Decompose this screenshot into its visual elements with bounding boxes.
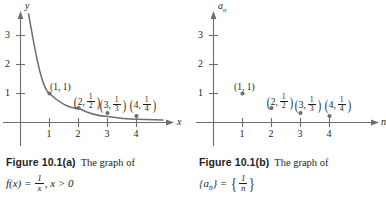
x-axis-b [196, 120, 379, 126]
figure-panel-a: y x 1 2 3 1 2 3 4 (1, 1) (2, 12) (3, 13)… [0, 0, 193, 205]
paren-open-3-b: ( [295, 97, 298, 114]
caption-formula-a: f(x) = 1x, x > 0 [6, 174, 192, 193]
x-tick-label-2-b: 2 [269, 128, 274, 139]
point-label-4-a: (4, 14) [129, 96, 156, 114]
point-x-3-a: 3 [104, 100, 109, 110]
brace-close-b: } [250, 176, 256, 194]
formula-lhs-a: f(x) [6, 177, 21, 189]
paren-close-3-b: ) [317, 97, 320, 114]
paren-open-2-b: ( [267, 94, 270, 111]
figure-label-a: Figure 10.1(a) [6, 156, 76, 168]
paren-close-4-b: ) [347, 97, 350, 114]
fraction-4-b: 14 [338, 96, 346, 113]
point-x-2-b: 2 [271, 97, 276, 107]
fraction-2-b: 12 [280, 93, 288, 110]
y-axis-b [211, 11, 217, 146]
plot-area-a: y x 1 2 3 1 2 3 4 (1, 1) (2, 12) (3, 13)… [0, 0, 193, 150]
point-x-4-b: 4 [329, 100, 334, 110]
caption-text-a: The graph of [76, 157, 135, 168]
x-axis-label-a: x [177, 116, 181, 127]
point-label-3-b: (3, 13) [294, 96, 321, 114]
paren-open-2-a: ( [74, 94, 77, 111]
x-axis-label-b: n [381, 116, 386, 127]
y-tick-label-3-b: 3 [198, 29, 203, 40]
plot-area-b: an n 1 2 3 1 2 3 4 (1, 1) (2, 12) (3, 13… [193, 0, 386, 150]
x-tick-label-3-b: 3 [298, 128, 303, 139]
figure-10-1: y x 1 2 3 1 2 3 4 (1, 1) (2, 12) (3, 13)… [0, 0, 386, 205]
graph-f-of-x [0, 0, 193, 150]
x-tick-label-1-a: 1 [47, 128, 52, 139]
formula-eq-a: = [24, 177, 31, 189]
y-tick-label-2-b: 2 [198, 58, 203, 69]
point-label-1-a: (1, 1) [50, 82, 71, 92]
fraction-2-a: 12 [87, 93, 95, 110]
formula-condition-a: , x > 0 [45, 177, 74, 189]
paren-close-4-a: ) [152, 97, 155, 114]
y-tick-label-3-a: 3 [5, 29, 10, 40]
x-tick-label-4-a: 4 [134, 128, 139, 139]
fraction-3-a: 13 [113, 96, 121, 113]
paren-open-3-a: ( [100, 97, 103, 114]
y-axis-label-b: an [218, 0, 227, 14]
y-tick-label-1-a: 1 [5, 87, 10, 98]
figure-label-b: Figure 10.1(b) [199, 156, 269, 168]
point-x-3-b: 3 [299, 100, 304, 110]
paren-open-4-b: ( [325, 97, 328, 114]
y-axis-label-a: y [25, 0, 29, 11]
formula-eq-b: = [220, 177, 227, 189]
paren-close-3-a: ) [122, 97, 125, 114]
caption-line-1-a: Figure 10.1(a)The graph of [6, 152, 192, 170]
brace-open-b: { [231, 176, 237, 194]
formula-fraction-b: 1n [239, 174, 248, 193]
figure-panel-b: an n 1 2 3 1 2 3 4 (1, 1) (2, 12) (3, 13… [193, 0, 386, 205]
y-axis-a [18, 11, 24, 146]
x-tick-label-1-b: 1 [240, 128, 245, 139]
caption-text-b: The graph of [269, 157, 328, 168]
caption-a: Figure 10.1(a)The graph of f(x) = 1x, x … [6, 152, 192, 193]
caption-b: Figure 10.1(b)The graph of {an} = {1n} [199, 152, 385, 195]
paren-open-4-a: ( [130, 97, 133, 114]
y-tick-label-1-b: 1 [198, 87, 203, 98]
point-label-2-a: (2, 12) [73, 93, 100, 111]
graph-sequence-a-n [193, 0, 386, 150]
formula-lhs-b: {an} [199, 177, 217, 189]
x-axis-a [3, 120, 174, 126]
caption-line-1-b: Figure 10.1(b)The graph of [199, 152, 385, 170]
paren-close-2-b: ) [289, 94, 292, 111]
point-label-1-b: (1, 1) [234, 82, 255, 92]
fraction-4-a: 14 [143, 96, 151, 113]
caption-formula-b: {an} = {1n} [199, 174, 385, 195]
fraction-3-b: 13 [308, 96, 316, 113]
x-tick-label-3-a: 3 [105, 128, 110, 139]
point-x-2-a: 2 [78, 97, 83, 107]
x-tick-label-4-b: 4 [327, 128, 332, 139]
x-tick-label-2-a: 2 [76, 128, 81, 139]
point-label-3-a: (3, 13) [99, 96, 126, 114]
point-x-4-a: 4 [134, 100, 139, 110]
point-label-4-b: (4, 14) [324, 96, 351, 114]
point-label-2-b: (2, 12) [266, 93, 293, 111]
y-tick-label-2-a: 2 [5, 58, 10, 69]
formula-fraction-a: 1x [35, 174, 44, 193]
